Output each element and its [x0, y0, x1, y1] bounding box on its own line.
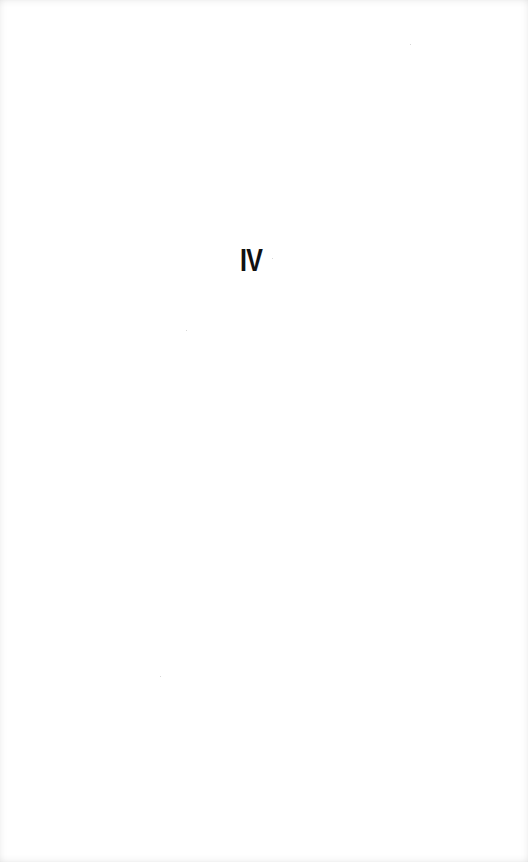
scan-speck [410, 44, 411, 45]
scan-speck [272, 258, 273, 259]
scan-speck [160, 676, 161, 677]
document-page: IV [0, 0, 528, 862]
scan-speck [186, 330, 187, 331]
part-number-heading: IV [240, 243, 262, 277]
